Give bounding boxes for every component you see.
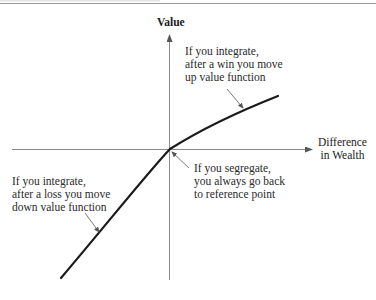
y-axis-label: Value [157,16,185,29]
loss-pointer-icon [85,213,99,232]
win-annotation-line-1: If you integrate, [185,45,283,58]
loss-annotation-line-3: down value function [12,201,110,214]
segregate-annotation-line-1: If you segregate, [194,162,285,175]
segregate-pointer-icon [172,152,189,168]
x-axis-label: Difference in Wealth [318,136,367,162]
gains-curve [170,96,278,149]
segregate-annotation-line-2: you always go back [194,175,285,188]
loss-annotation-line-2: after a loss you move [12,188,110,201]
win-annotation: If you integrate, after a win you move u… [185,45,283,84]
segregate-annotation-line-3: to reference point [194,188,285,201]
segregate-annotation: If you segregate, you always go back to … [194,162,285,201]
win-annotation-line-3: up value function [185,71,283,84]
x-axis-label-line-2: in Wealth [318,149,367,162]
y-axis-label-text: Value [157,16,185,28]
x-axis-label-line-1: Difference [318,136,367,149]
win-pointer-icon [227,89,243,108]
loss-annotation-line-1: If you integrate, [12,175,110,188]
loss-annotation: If you integrate, after a loss you move … [12,175,110,214]
win-annotation-line-2: after a win you move [185,58,283,71]
